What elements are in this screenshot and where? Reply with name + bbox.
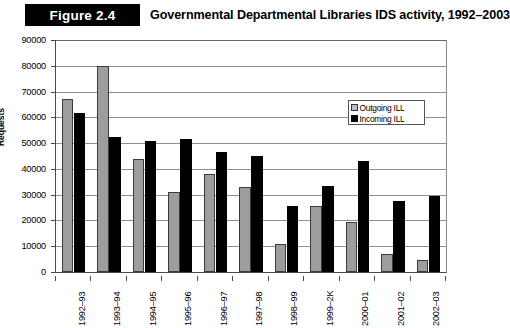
bar-group	[55, 40, 90, 272]
bar-group	[90, 40, 125, 272]
bar-chart: Requests 0100002000030000400005000060000…	[0, 28, 456, 328]
x-axis-tick-mark	[410, 276, 411, 281]
bar-outgoing	[310, 206, 322, 272]
y-axis-tick-mark	[51, 272, 56, 273]
bar-incoming	[287, 206, 299, 272]
x-axis-tick-mark	[268, 276, 269, 281]
x-axis-tick-mark	[197, 276, 198, 281]
bar-incoming	[180, 139, 192, 272]
legend-label-incoming: Incoming ILL	[360, 114, 405, 124]
y-axis-tick-label: 10000	[21, 242, 46, 251]
bar-outgoing	[275, 244, 287, 272]
bar-group	[410, 40, 445, 272]
bar-incoming	[145, 141, 157, 272]
y-axis-tick-label: 50000	[21, 139, 46, 148]
y-axis-tick-label: 30000	[21, 190, 46, 199]
y-axis-tick-label: 40000	[21, 164, 46, 173]
bar-group	[161, 40, 196, 272]
bar-incoming	[74, 113, 86, 272]
x-axis-tick-mark	[303, 276, 304, 281]
y-axis-tick-label: 90000	[21, 36, 46, 45]
bar-incoming	[251, 156, 263, 272]
bar-incoming	[429, 196, 441, 272]
x-axis-tick-mark	[126, 276, 127, 281]
bar-outgoing	[62, 99, 74, 272]
bar-group	[232, 40, 267, 272]
x-axis-tick-label: 1998–99	[289, 292, 299, 326]
x-axis-tick-mark	[161, 276, 162, 281]
x-axis-tick-label: 2001–02	[396, 292, 406, 326]
bar-outgoing	[97, 66, 109, 272]
figure-title: Governmental Departmental Libraries IDS …	[150, 5, 510, 25]
bar-group	[268, 40, 303, 272]
y-axis-tick-label: 60000	[21, 113, 46, 122]
x-axis-tick-mark	[339, 276, 340, 281]
legend-swatch-incoming-icon	[351, 115, 358, 122]
x-axis-tick-labels: 1992–931993–941994–951995–961996–971997–…	[55, 276, 445, 328]
bar-group	[303, 40, 338, 272]
x-axis-tick-label: 1996–97	[219, 292, 229, 326]
bar-outgoing	[239, 187, 251, 272]
x-axis-tick-label: 2002–03	[431, 292, 441, 326]
x-axis-tick-label: 2000–01	[360, 292, 370, 326]
y-axis-tick-label: 20000	[21, 216, 46, 225]
y-axis-tick-label: 80000	[21, 61, 46, 70]
bar-outgoing	[168, 192, 180, 272]
bar-outgoing	[417, 260, 429, 272]
bar-group	[374, 40, 409, 272]
bar-group	[197, 40, 232, 272]
x-axis-tick-mark	[232, 276, 233, 281]
legend-swatch-outgoing-icon	[351, 104, 358, 111]
bar-incoming	[393, 201, 405, 272]
x-axis-tick-mark	[445, 276, 446, 281]
bar-incoming	[358, 161, 370, 272]
bar-incoming	[216, 152, 228, 272]
bar-group	[339, 40, 374, 272]
x-axis-tick-mark	[90, 276, 91, 281]
legend-label-outgoing: Outgoing ILL	[360, 103, 405, 113]
bar-incoming	[109, 137, 121, 272]
x-axis-tick-mark	[374, 276, 375, 281]
legend-item-outgoing: Outgoing ILL	[351, 102, 422, 113]
bar-outgoing	[346, 222, 358, 272]
bar-incoming	[322, 186, 334, 272]
legend-item-incoming: Incoming ILL	[351, 113, 422, 124]
chart-legend: Outgoing ILL Incoming ILL	[348, 100, 425, 125]
x-axis-tick-label: 1992–93	[77, 292, 87, 326]
figure-header: Figure 2.4 Governmental Departmental Lib…	[0, 0, 456, 30]
x-axis-tick-label: 1993–94	[112, 292, 122, 326]
x-axis-tick-label: 1999–2K	[325, 291, 335, 326]
bar-group	[126, 40, 161, 272]
y-axis-tick-labels: 0100002000030000400005000060000700008000…	[0, 40, 53, 272]
y-axis-tick-label: 0	[41, 268, 46, 277]
bar-outgoing	[204, 174, 216, 272]
figure-number-badge: Figure 2.4	[25, 4, 140, 26]
x-axis-tick-label: 1994–95	[148, 292, 158, 326]
bar-outgoing	[381, 254, 393, 272]
x-axis-tick-label: 1997–98	[254, 292, 264, 326]
bars-layer	[55, 40, 445, 272]
x-axis-tick-mark	[55, 276, 56, 281]
y-axis-tick-label: 70000	[21, 87, 46, 96]
bar-outgoing	[133, 159, 145, 272]
x-axis-tick-label: 1995–96	[183, 292, 193, 326]
